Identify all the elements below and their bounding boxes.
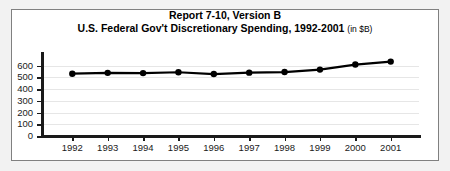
x-axis-tick [178, 136, 180, 141]
y-axis-tick [37, 89, 42, 91]
x-axis-tick-label: 1993 [97, 143, 118, 153]
x-axis-tick-label: 1995 [168, 143, 189, 153]
gridline [44, 101, 419, 102]
x-axis-tick-label: 1999 [309, 143, 330, 153]
x-axis-tick-label: 1992 [62, 143, 83, 153]
plot-area [44, 54, 419, 136]
chart-figure: Report 7-10, Version B U.S. Federal Gov'… [0, 0, 450, 171]
y-axis-tick [37, 77, 42, 79]
x-axis-tick [143, 136, 145, 141]
chart-subtitle: U.S. Federal Gov't Discretionary Spendin… [0, 22, 450, 35]
x-axis-tick-label: 2001 [380, 143, 401, 153]
x-axis-tick-label: 1998 [274, 143, 295, 153]
y-axis-tick-label: 400 [17, 84, 33, 94]
x-axis-tick [320, 136, 322, 141]
y-axis-tick-label: 200 [17, 108, 33, 118]
gridline [44, 66, 419, 67]
y-axis-tick-label: 100 [17, 119, 33, 129]
y-axis-tick [37, 113, 42, 115]
y-axis-tick [37, 101, 42, 103]
x-axis-tick [249, 136, 251, 141]
x-axis-tick [108, 136, 110, 141]
chart-subtitle-text: U.S. Federal Gov't Discretionary Spendin… [78, 22, 345, 34]
y-axis-tick-label: 0 [28, 131, 33, 141]
x-axis-tick-label: 1996 [203, 143, 224, 153]
chart-title-block: Report 7-10, Version B U.S. Federal Gov'… [0, 9, 450, 35]
gridline [44, 89, 419, 90]
x-axis-tick-label: 1997 [239, 143, 260, 153]
y-axis-tick-label: 500 [17, 72, 33, 82]
x-axis-tick-label: 1994 [132, 143, 153, 153]
x-axis-line [41, 135, 421, 138]
x-axis-tick [214, 136, 216, 141]
x-axis-tick [72, 136, 74, 141]
y-axis-tick [37, 136, 42, 138]
chart-title: Report 7-10, Version B [0, 9, 450, 22]
y-axis-tick [37, 124, 42, 126]
y-axis-tick-label: 600 [17, 61, 33, 71]
x-axis-tick-label: 2000 [345, 143, 366, 153]
x-axis-tick [285, 136, 287, 141]
gridline [44, 113, 419, 114]
chart-subtitle-units: (in $B) [347, 24, 372, 34]
y-axis-tick [37, 66, 42, 68]
x-axis-tick [391, 136, 393, 141]
y-axis-tick-label: 300 [17, 96, 33, 106]
x-axis-tick [355, 136, 357, 141]
gridline [44, 77, 419, 78]
gridline [44, 124, 419, 125]
